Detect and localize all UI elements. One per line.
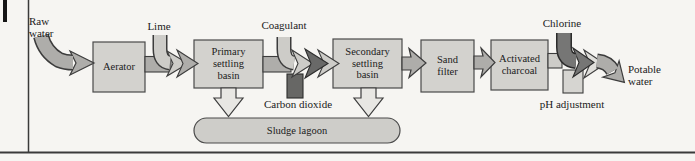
sludge-lagoon-label: Sludge lagoon [194,118,400,143]
aerator-label: Aerator [93,42,145,92]
ph-adjustment-label: pH adjustment [540,99,604,111]
water-treatment-flow-diagram: Raw water Lime Coagulant Carbon dioxide … [0,0,695,161]
primary-to-secondary-flow [263,37,339,98]
potable-water-label: Potable water [628,64,661,87]
chlorine-label: Chlorine [543,18,582,30]
ph-adjustment-inlet [563,70,583,93]
secondary-settling-basin-label: Secondary settling basin [333,39,402,88]
coagulant-label: Coagulant [261,20,306,32]
page-crop-mark [3,0,7,22]
primary-settling-basin-label: Primary settling basin [194,40,263,88]
primary-to-lagoon-arrow [214,88,243,117]
raw-water-label: Raw water [29,16,53,39]
charcoal-to-output-flow [548,33,624,93]
carbon-dioxide-label: Carbon dioxide [264,99,332,111]
potable-water-arrow [597,61,624,83]
carbon-dioxide-inlet [287,74,303,98]
secondary-to-lagoon-arrow [354,88,383,117]
lime-label: Lime [147,21,170,33]
sand-filter-label: Sand filter [421,40,474,92]
raw-water-arrow [41,36,94,75]
activated-charcoal-label: Activated charcoal [491,40,548,90]
aerator-to-primary-flow [145,35,198,77]
